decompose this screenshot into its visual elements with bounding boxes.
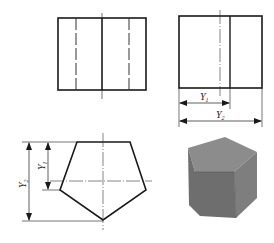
dim-y1-label: Y1	[200, 91, 209, 103]
front-view	[58, 13, 146, 99]
dim-y2-label: Y2	[216, 109, 225, 121]
side-view: Y1 Y2	[179, 10, 262, 127]
dim-y1-vertical-label: Y1	[36, 161, 48, 170]
prism-model	[188, 137, 257, 218]
drawing-canvas: Y1 Y2 Y1 Y2	[0, 0, 274, 243]
top-view: Y1 Y2	[17, 133, 152, 230]
dim-y2-vertical-label: Y2	[17, 179, 29, 188]
